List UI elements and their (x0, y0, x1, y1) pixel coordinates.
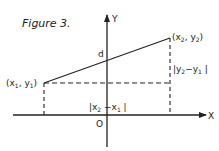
svg-text:|y2−y1 |: |y2−y1 | (173, 64, 208, 75)
figure-title: Figure 3. (22, 17, 71, 30)
origin-label: O (96, 119, 103, 129)
point-2-label: (x2, y2) (172, 32, 203, 43)
intercept-label: d (98, 49, 104, 59)
point-1-label: (x1, y1) (6, 78, 37, 89)
svg-text:(x1, y1): (x1, y1) (6, 78, 37, 89)
svg-text:|x2 −x1 |: |x2 −x1 | (89, 102, 127, 113)
horizontal-distance-label: |x2 −x1 | (89, 102, 127, 113)
x-axis-label: X (208, 111, 214, 121)
y-axis-label: Y (111, 14, 118, 24)
vertical-distance-label: |y2−y1 | (173, 64, 208, 75)
coordinate-diagram: Figure 3. X Y O d (x1, y1) (x2, y2) |y2−… (0, 0, 219, 151)
svg-text:(x2, y2): (x2, y2) (172, 32, 203, 43)
